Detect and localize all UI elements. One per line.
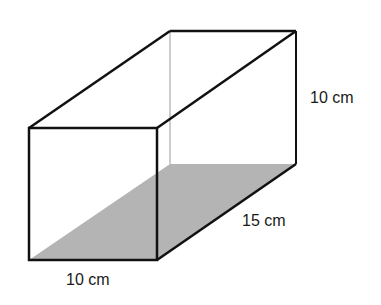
- top-right-edge: [157, 31, 296, 128]
- height-label: 10 cm: [310, 89, 354, 107]
- depth-label: 15 cm: [242, 212, 286, 230]
- width-label: 10 cm: [66, 271, 110, 289]
- prism-diagram: [0, 0, 381, 305]
- top-left-edge: [29, 31, 170, 128]
